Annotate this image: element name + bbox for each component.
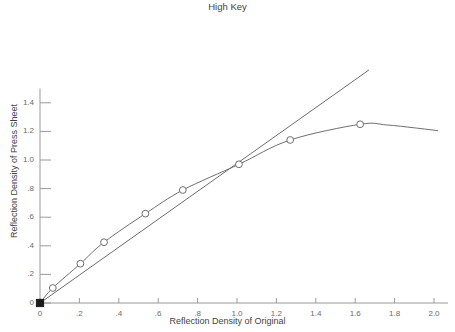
chart-figure: High Key Reflection Density of Original … bbox=[0, 0, 455, 332]
y-tick-label: .4 bbox=[10, 241, 34, 250]
y-tick-label: .2 bbox=[10, 269, 34, 278]
x-tick-label: 2.0 bbox=[419, 309, 449, 318]
origin-square-marker bbox=[36, 299, 43, 306]
data-point-marker bbox=[287, 137, 294, 144]
x-tick-label: .2 bbox=[64, 309, 94, 318]
x-tick-label: 1.6 bbox=[340, 309, 370, 318]
x-tick-label: .8 bbox=[183, 309, 213, 318]
y-tick-label: 1.0 bbox=[10, 155, 34, 164]
tone-reproduction-curve bbox=[40, 123, 438, 303]
data-point-marker bbox=[236, 161, 243, 168]
data-point-marker bbox=[101, 239, 108, 246]
y-tick-label: 1.2 bbox=[10, 126, 34, 135]
x-tick-label: 1.2 bbox=[261, 309, 291, 318]
x-tick-label: 0 bbox=[25, 309, 55, 318]
x-tick-label: .4 bbox=[104, 309, 134, 318]
y-tick-label: .6 bbox=[10, 212, 34, 221]
x-tick-label: .6 bbox=[143, 309, 173, 318]
data-point-marker bbox=[357, 121, 364, 128]
data-point-marker bbox=[77, 260, 84, 267]
x-tick-label: 1.8 bbox=[380, 309, 410, 318]
x-tick-label: 1.0 bbox=[222, 309, 252, 318]
y-tick-label: 0 bbox=[10, 298, 34, 307]
data-point-marker bbox=[179, 187, 186, 194]
y-tick-label: 1.4 bbox=[10, 98, 34, 107]
reference-line-45deg bbox=[40, 70, 369, 303]
y-tick-label: .8 bbox=[10, 184, 34, 193]
data-point-marker bbox=[142, 210, 149, 217]
plot-canvas bbox=[0, 0, 455, 332]
x-tick-label: 1.4 bbox=[301, 309, 331, 318]
data-point-marker bbox=[49, 285, 56, 292]
